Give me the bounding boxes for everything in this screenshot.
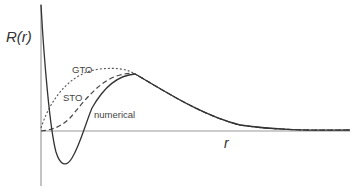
radial-function-plot: [0, 0, 352, 191]
numerical-curve: [41, 5, 350, 164]
gto-label: GTO: [72, 64, 92, 75]
y-axis-label: R(r): [6, 28, 32, 45]
numerical-label: numerical: [94, 109, 135, 120]
sto-curve: [41, 73, 350, 131]
sto-label: STO: [63, 92, 82, 103]
x-axis-label: r: [224, 135, 229, 151]
